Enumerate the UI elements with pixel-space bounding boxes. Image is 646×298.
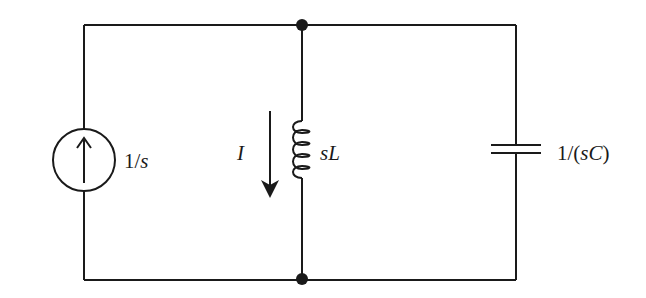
inductor	[293, 121, 310, 178]
inductor-label: sL	[320, 141, 340, 165]
current-label: I	[236, 141, 245, 165]
wires	[84, 25, 516, 280]
inductor-coil	[293, 121, 310, 178]
capacitor	[491, 145, 541, 153]
bottom-node-dot	[296, 273, 308, 285]
capacitor-label: 1/(sC)	[557, 141, 610, 165]
current-source	[53, 129, 115, 191]
circuit-diagram: 1/s I sL 1/(sC)	[0, 0, 646, 298]
source-label: 1/s	[124, 149, 149, 173]
top-node-dot	[296, 19, 308, 31]
current-arrow	[261, 111, 279, 198]
